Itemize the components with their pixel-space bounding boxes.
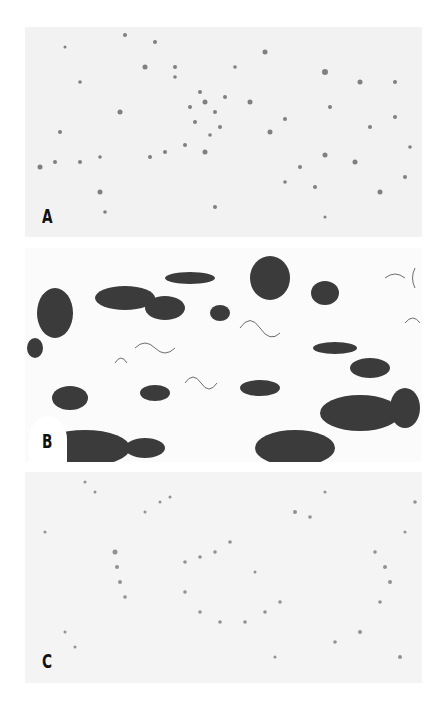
micrograph-panel-b: B [25,248,422,462]
panel-b-texture [25,248,422,462]
panel-label-a: A [42,207,53,226]
panel-label-c: C [42,652,52,671]
micrograph-panel-a: A [25,27,422,237]
panel-a-texture [25,27,422,237]
micrograph-panel-c: C [25,472,422,683]
panel-label-b: B [42,432,52,451]
panel-c-texture [25,472,422,683]
